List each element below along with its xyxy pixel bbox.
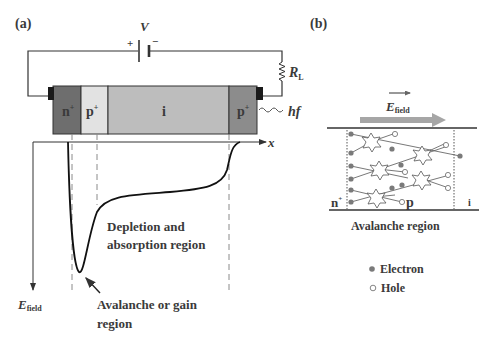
depletion-label-2: absorption region bbox=[107, 237, 206, 252]
field-curve bbox=[68, 142, 240, 272]
electron bbox=[348, 163, 353, 168]
hole-legend-icon bbox=[370, 285, 376, 291]
i-label: i bbox=[162, 104, 166, 119]
boundary-lines bbox=[72, 134, 229, 290]
light-wave-icon bbox=[259, 108, 283, 112]
resistor-icon bbox=[279, 62, 285, 81]
voltage-label: V bbox=[140, 19, 150, 34]
region-caption: Avalanche region bbox=[351, 219, 440, 233]
depletion-label-1: Depletion and bbox=[107, 219, 185, 234]
avalanche-pointer bbox=[86, 278, 100, 293]
avalanche-label-2: region bbox=[97, 316, 133, 331]
electron bbox=[389, 146, 394, 151]
layer-i bbox=[108, 86, 229, 134]
contact-left bbox=[48, 87, 54, 100]
hole bbox=[445, 185, 450, 190]
electron bbox=[348, 131, 353, 136]
electron bbox=[399, 182, 404, 187]
hole bbox=[443, 142, 448, 147]
n-plus-label-b: n+ bbox=[331, 195, 342, 210]
star-icon bbox=[362, 133, 381, 152]
apd-diagram: (a) + − V RL n+ p+ i p+ hf x Efield bbox=[0, 0, 494, 346]
star-icon bbox=[367, 189, 386, 208]
panel-b-label: (b) bbox=[310, 16, 327, 32]
contact-right bbox=[256, 87, 263, 100]
electron-legend-icon bbox=[369, 266, 375, 272]
plus-sign: + bbox=[127, 37, 133, 49]
legend: Electron Hole bbox=[369, 262, 424, 295]
minus-sign: − bbox=[152, 35, 158, 47]
legend-electron-label: Electron bbox=[380, 262, 424, 276]
resistor-label: RL bbox=[288, 65, 304, 82]
panel-a-label: (a) bbox=[15, 16, 32, 32]
device-stack bbox=[48, 86, 263, 134]
battery-icon bbox=[139, 40, 149, 62]
light-label: hf bbox=[288, 104, 302, 119]
electron bbox=[457, 153, 462, 158]
p-label-b: p bbox=[406, 195, 414, 210]
electron bbox=[348, 187, 353, 192]
y-axis-label: Efield bbox=[17, 297, 42, 313]
avalanche-label-1: Avalanche or gain bbox=[97, 297, 198, 312]
electron bbox=[348, 150, 353, 155]
star-icon bbox=[413, 146, 432, 165]
hole bbox=[392, 131, 397, 136]
hole bbox=[399, 199, 404, 204]
electron bbox=[398, 162, 403, 167]
hole bbox=[445, 172, 450, 177]
x-axis-label: x bbox=[267, 135, 275, 150]
hole bbox=[402, 169, 407, 174]
legend-hole-label: Hole bbox=[381, 281, 406, 295]
i-label-b: i bbox=[468, 197, 471, 208]
electron bbox=[348, 176, 353, 181]
field-arrow bbox=[360, 113, 446, 127]
electron bbox=[389, 185, 394, 190]
electron bbox=[348, 199, 353, 204]
holes bbox=[392, 131, 450, 204]
field-label: Efield bbox=[385, 99, 410, 115]
